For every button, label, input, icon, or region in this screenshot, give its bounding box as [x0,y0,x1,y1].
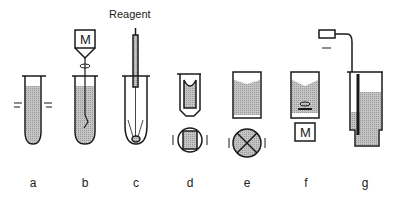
panel-label-a: a [23,176,43,190]
panel-b-motor-stirrer [72,30,98,144]
panel-label-e: e [237,176,257,190]
panel-label-g: g [355,176,375,190]
panel-label-f: f [296,176,316,190]
panel-label-d: d [180,176,200,190]
panel-a-tube [14,76,52,144]
panel-d-cuvette [173,74,207,152]
panel-c-reagent-injection [122,28,150,144]
panel-label-b: b [75,176,95,190]
motor-label-b: M [80,32,91,47]
diagram-canvas: M M [0,0,399,200]
mixing-methods-diagram: M M Reagent a b c d e f g [0,0,399,200]
panel-label-c: c [126,176,146,190]
panel-e-cross-stirrer [229,72,265,157]
panel-g-pneumatic-pump [319,30,383,146]
motor-label-f: M [300,125,311,140]
reagent-annotation: Reagent [109,8,151,20]
